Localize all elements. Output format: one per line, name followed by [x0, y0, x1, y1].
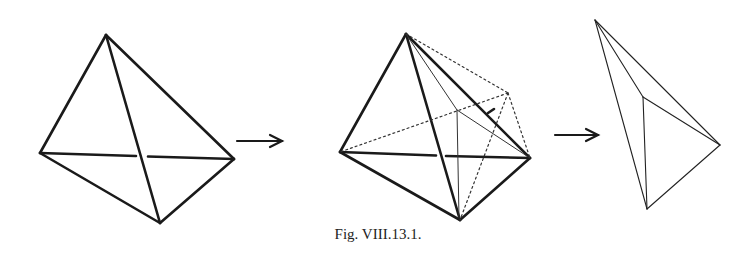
- arrow-right-icon: [555, 129, 598, 141]
- tetrahedron-left: [40, 35, 234, 223]
- tetrahedron-construction: [340, 34, 530, 220]
- arrow-right-icon: [237, 135, 282, 147]
- figure-canvas: [0, 0, 756, 256]
- resulting-solid: [595, 20, 720, 209]
- figure-caption: Fig. VIII.13.1.: [0, 226, 756, 243]
- caption-text: Fig. VIII.13.1.: [335, 226, 422, 243]
